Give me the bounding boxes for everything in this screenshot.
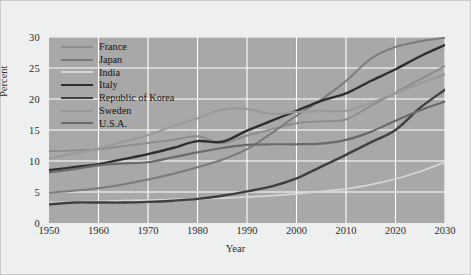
y-axis-title: Percent [0, 66, 9, 98]
legend-item[interactable]: India [61, 67, 174, 79]
legend-item-label: U.S.A. [99, 118, 127, 130]
legend-item[interactable]: Japan [61, 54, 174, 66]
x-tick-label: 1950 [39, 225, 60, 236]
legend-color-swatch [61, 71, 93, 73]
y-tick-label: 5 [35, 187, 40, 198]
chart-legend: FranceJapanIndiaItalyRepublic of KoreaSw… [61, 41, 174, 129]
x-tick-label: 2030 [435, 225, 456, 236]
legend-color-swatch [61, 97, 93, 99]
y-tick-label: 20 [29, 94, 40, 105]
y-tick-label: 30 [29, 32, 40, 43]
x-axis-ticks: 195019601970198019902000201020202030 [49, 225, 445, 241]
y-tick-label: 15 [29, 125, 40, 136]
y-tick-label: 10 [29, 156, 40, 167]
legend-item-label: Japan [99, 54, 122, 66]
legend-item-label: Sweden [99, 105, 131, 117]
legend-color-swatch [61, 59, 93, 61]
legend-item-label: France [99, 41, 127, 53]
y-tick-label: 25 [29, 63, 40, 74]
legend-item-label: Republic of Korea [99, 92, 174, 104]
legend-item[interactable]: France [61, 41, 174, 53]
x-tick-label: 1980 [187, 225, 208, 236]
legend-color-swatch [61, 110, 93, 112]
x-axis-title: Year [1, 243, 470, 254]
legend-color-swatch [61, 46, 93, 48]
figure-container: 051015202530 Percent 1950196019701980199… [0, 0, 471, 275]
legend-item[interactable]: Republic of Korea [61, 92, 174, 104]
x-tick-label: 1990 [237, 225, 258, 236]
x-tick-label: 1960 [88, 225, 109, 236]
legend-item-label: India [99, 67, 120, 79]
legend-item[interactable]: Italy [61, 79, 174, 91]
x-tick-label: 2010 [336, 225, 357, 236]
x-tick-label: 1970 [138, 225, 159, 236]
legend-color-swatch [61, 84, 93, 86]
x-tick-label: 2000 [286, 225, 307, 236]
legend-item[interactable]: Sweden [61, 105, 174, 117]
legend-item[interactable]: U.S.A. [61, 118, 174, 130]
x-tick-label: 2020 [385, 225, 406, 236]
legend-item-label: Italy [99, 79, 118, 91]
legend-color-swatch [61, 122, 93, 124]
